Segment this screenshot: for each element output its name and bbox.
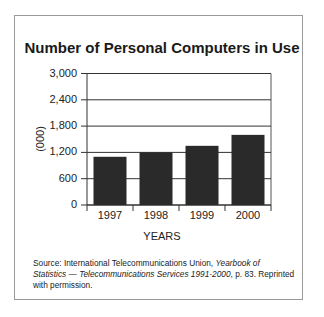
- bar-1999: [186, 146, 219, 205]
- source-prefix: Source: International Telecommunications…: [33, 258, 213, 268]
- y-tick-label: 2,400: [37, 93, 77, 105]
- x-tick-label: 1997: [87, 209, 133, 221]
- x-tick-label: 1998: [133, 209, 179, 221]
- bar-2000: [232, 135, 265, 205]
- bar-1997: [94, 157, 127, 205]
- y-tick-label: 3,000: [37, 67, 77, 79]
- source-dash: —: [69, 269, 77, 279]
- x-tick-label: 1999: [179, 209, 225, 221]
- y-tick-label: 0: [37, 198, 77, 210]
- y-axis-title: (000): [34, 126, 46, 152]
- x-axis-title: YEARS: [0, 230, 324, 242]
- bar-1998: [140, 152, 173, 205]
- x-tick-label: 2000: [225, 209, 271, 221]
- source-title-2: Telecommunications Services 1991-2000: [79, 269, 230, 279]
- y-tick-label: 600: [37, 172, 77, 184]
- source-citation: Source: International Telecommunications…: [33, 258, 295, 291]
